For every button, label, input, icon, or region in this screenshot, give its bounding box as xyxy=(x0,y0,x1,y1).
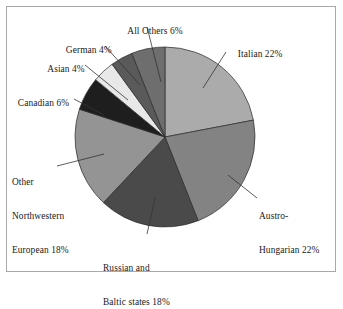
slice-label-canadian: Canadian 6% xyxy=(8,87,69,121)
slice-label-asian-text: Asian 4% xyxy=(47,64,85,74)
slice-label-other-nw-line2: Northwestern xyxy=(12,211,69,222)
pie-slices-group xyxy=(75,47,255,227)
slice-label-italian: Italian 22% xyxy=(228,38,282,72)
slice-label-austro-line2: Hungarian 22% xyxy=(259,245,319,256)
slice-label-other-nw-line1: Other xyxy=(12,177,69,188)
slice-label-russian-baltic: Russian and Baltic states 18% xyxy=(103,240,170,309)
slice-label-italian-text: Italian 22% xyxy=(238,49,283,59)
slice-label-all-others: All Others 6% xyxy=(118,15,183,49)
slice-label-russian-line2: Baltic states 18% xyxy=(103,297,170,308)
slice-label-asian: Asian 4% xyxy=(38,53,85,87)
slice-label-austro-hungarian: Austro- Hungarian 22% xyxy=(259,188,319,279)
slice-label-other-nw-line3: European 18% xyxy=(12,245,69,256)
slice-label-russian-line1: Russian and xyxy=(103,263,170,274)
slice-label-other-northwestern-european: Other Northwestern European 18% xyxy=(12,154,69,279)
slice-label-canadian-text: Canadian 6% xyxy=(18,98,69,108)
slice-label-all-others-text: All Others 6% xyxy=(127,26,182,36)
slice-label-austro-line1: Austro- xyxy=(259,211,319,222)
